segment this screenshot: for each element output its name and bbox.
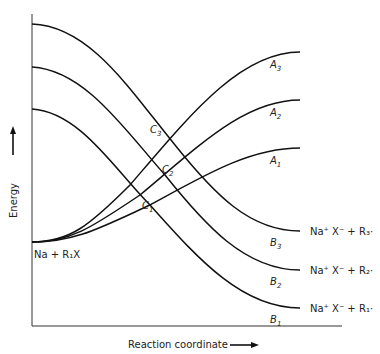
label-c1: C1 <box>142 200 153 214</box>
label-c2: C2 <box>162 164 174 178</box>
y-axis-label: Energy <box>8 183 19 218</box>
reactant-label: Na + R₁X <box>34 249 80 260</box>
energy-diagram: Energy Reaction coordinate Na + R₁X A3 A… <box>0 0 380 354</box>
curve-b1 <box>32 109 300 308</box>
product-label-r3: Na⁺ X⁻ + R₃· <box>310 226 373 237</box>
label-a1: A1 <box>269 155 281 169</box>
x-axis-label: Reaction coordinate <box>128 339 228 350</box>
label-b3: B3 <box>270 237 281 251</box>
product-label-r2: Na⁺ X⁻ + R₂· <box>310 265 373 276</box>
label-a3: A3 <box>269 59 281 73</box>
label-a2: A2 <box>269 107 282 121</box>
curve-a1 <box>32 148 300 242</box>
arrow-up-icon <box>10 126 16 134</box>
arrow-right-icon <box>251 342 259 348</box>
y-axis-label-group: Energy <box>8 126 19 218</box>
product-label-r1: Na⁺ X⁻ + R₁· <box>310 303 373 314</box>
x-axis-label-group: Reaction coordinate <box>128 339 259 350</box>
curve-b3 <box>32 24 300 231</box>
label-b2: B2 <box>270 276 282 290</box>
